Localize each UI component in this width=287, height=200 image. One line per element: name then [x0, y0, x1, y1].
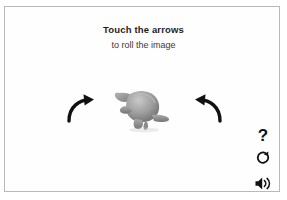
- sound-button[interactable]: [250, 172, 276, 194]
- control-column: ?: [248, 124, 278, 194]
- replay-button[interactable]: [250, 147, 276, 169]
- app-screen: Touch the arrows to roll the image: [0, 0, 287, 200]
- roll-left-arrow-button[interactable]: [191, 92, 225, 126]
- refresh-circle-icon: [256, 151, 270, 165]
- question-mark-icon: ?: [258, 127, 268, 144]
- roll-right-arrow-button[interactable]: [64, 92, 98, 126]
- curved-arrow-right-icon: [64, 92, 98, 126]
- image-roll-stage: [0, 80, 287, 150]
- turtle-3d-object[interactable]: [111, 82, 173, 134]
- help-button[interactable]: ?: [250, 124, 276, 146]
- curved-arrow-left-icon: [191, 92, 225, 126]
- speaker-volume-icon: [254, 176, 272, 191]
